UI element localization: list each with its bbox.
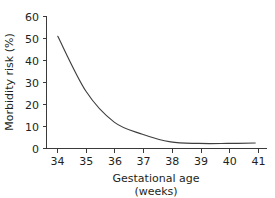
x-tick-label-36: 36 (108, 155, 122, 168)
morbidity-risk-line-chart: 60 50 40 30 20 10 0 34 35 36 37 38 39 (0, 0, 275, 198)
x-tick-label-41: 41 (251, 155, 265, 168)
x-axis-title-line1: Gestational age (113, 172, 200, 185)
y-tick-label-0: 0 (32, 143, 39, 156)
chart-background (0, 0, 275, 198)
x-tick-label-40: 40 (223, 155, 237, 168)
x-tick-label-38: 38 (165, 155, 179, 168)
chart-figure: 60 50 40 30 20 10 0 34 35 36 37 38 39 (0, 0, 275, 198)
y-tick-label-30: 30 (25, 77, 39, 90)
y-tick-label-10: 10 (25, 121, 39, 134)
x-tick-label-37: 37 (137, 155, 151, 168)
x-tick-label-39: 39 (194, 155, 208, 168)
y-axis-title: Morbidity risk (%) (3, 33, 16, 130)
x-tick-label-35: 35 (79, 155, 93, 168)
y-tick-label-50: 50 (25, 33, 39, 46)
y-tick-label-20: 20 (25, 99, 39, 112)
x-axis-title-line2: (weeks) (134, 185, 177, 198)
y-tick-label-40: 40 (25, 55, 39, 68)
y-tick-label-60: 60 (25, 11, 39, 24)
x-tick-label-34: 34 (51, 155, 65, 168)
